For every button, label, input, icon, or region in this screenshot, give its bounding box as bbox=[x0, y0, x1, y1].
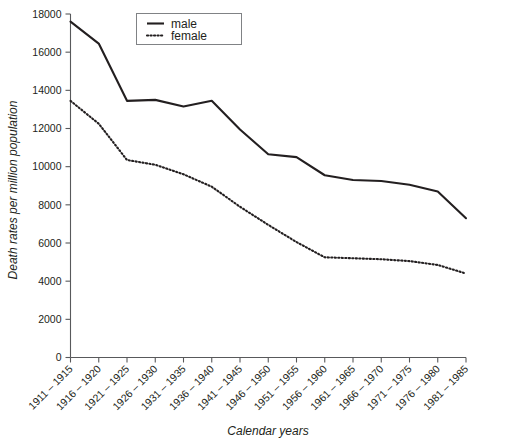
series-line-male bbox=[71, 22, 467, 219]
y-tick-label: 18000 bbox=[32, 8, 61, 20]
y-axis-title: Death rates per million population bbox=[6, 100, 20, 279]
chart-figure: Death rates per million population 02000… bbox=[0, 0, 505, 446]
y-tick-label: 6000 bbox=[38, 237, 62, 249]
chart-legend: male female bbox=[137, 14, 242, 45]
x-axis-title: Calendar years bbox=[227, 424, 308, 438]
y-tick-label: 0 bbox=[56, 351, 62, 363]
y-tick-label: 16000 bbox=[32, 46, 61, 58]
x-axis-ticks bbox=[71, 358, 467, 363]
y-tick-label: 4000 bbox=[38, 275, 62, 287]
line-chart-svg: Death rates per million population 02000… bbox=[0, 0, 505, 446]
y-tick-label: 12000 bbox=[32, 122, 61, 134]
y-tick-label: 10000 bbox=[32, 160, 61, 172]
series-line-female bbox=[71, 101, 467, 274]
y-tick-label: 8000 bbox=[38, 199, 62, 211]
y-tick-label: 14000 bbox=[32, 84, 61, 96]
legend-label-female: female bbox=[171, 29, 207, 43]
x-axis-tick-labels: 1911 – 19151916 – 19201921 – 19251926 – … bbox=[26, 362, 471, 412]
y-axis-ticks: 0200040006000800010000120001400016000180… bbox=[32, 8, 70, 364]
y-tick-label: 2000 bbox=[38, 313, 62, 325]
